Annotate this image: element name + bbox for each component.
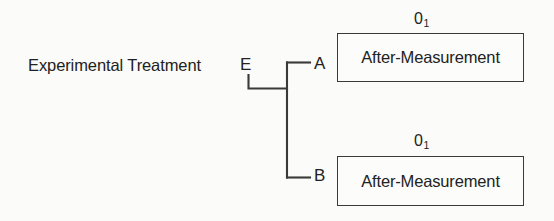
after-measurement-text-a: After-Measurement <box>361 48 500 67</box>
experimental-treatment-label: Experimental Treatment <box>28 57 201 74</box>
node-label-b: B <box>314 167 325 184</box>
node-label-a: A <box>314 55 325 72</box>
after-measurement-box-group-b: After-Measurement <box>337 156 524 206</box>
observation-subscript-b: 1 <box>423 139 429 151</box>
after-measurement-box-group-a: After-Measurement <box>337 33 524 82</box>
after-measurement-text-b: After-Measurement <box>361 172 500 191</box>
connector-e-to-trunk <box>249 75 288 89</box>
observation-label-group-a: 01 <box>414 11 429 27</box>
observation-label-group-b: 01 <box>414 133 429 149</box>
observation-symbol-a: 0 <box>414 10 423 27</box>
node-label-e: E <box>240 56 251 73</box>
observation-symbol-b: 0 <box>414 132 423 149</box>
observation-subscript-a: 1 <box>423 17 429 29</box>
design-diagram: Experimental Treatment E A B 01 After-Me… <box>0 0 554 221</box>
